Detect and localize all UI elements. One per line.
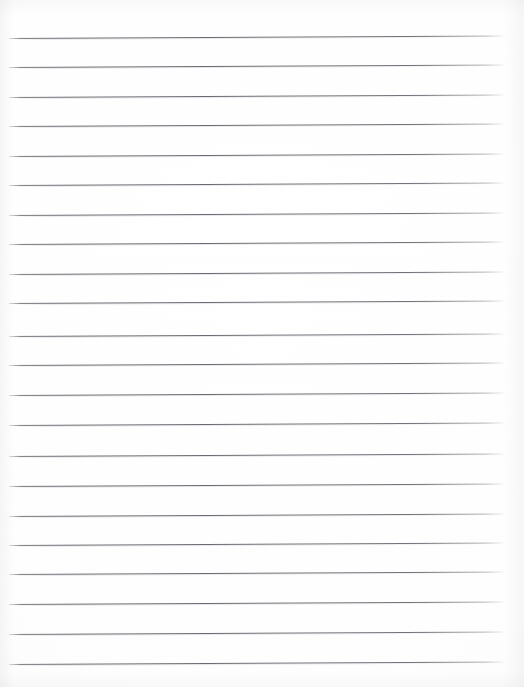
scanned-page	[0, 0, 524, 687]
writing-area[interactable]	[9, 38, 504, 668]
